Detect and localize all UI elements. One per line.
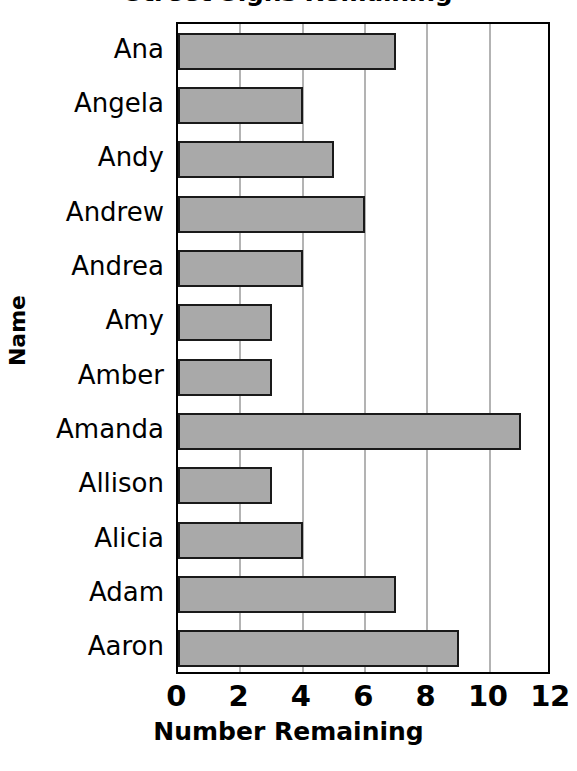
bar (178, 196, 365, 233)
x-axis-tick-label: 8 (395, 679, 455, 713)
y-axis-label: Andrew (66, 194, 164, 231)
bars-layer (178, 24, 548, 672)
bar (178, 576, 396, 613)
x-axis-tick-label: 6 (333, 679, 393, 713)
bar-chart: Street Signs Remaining AnaAngelaAndyAndr… (0, 0, 577, 771)
bar (178, 467, 272, 504)
y-axis-label: Ana (114, 31, 164, 68)
bar (178, 33, 396, 70)
y-axis-label: Amber (78, 357, 164, 394)
bar (178, 304, 272, 341)
x-axis-tick-label: 4 (271, 679, 331, 713)
bar (178, 87, 303, 124)
bar (178, 522, 303, 559)
y-axis-label: Andrea (71, 248, 164, 285)
x-axis-tick-label: 2 (208, 679, 268, 713)
y-axis-label: Angela (74, 85, 164, 122)
x-axis-tick-label: 12 (520, 679, 577, 713)
y-axis-label: Adam (89, 574, 164, 611)
x-axis-title: Number Remaining (0, 717, 577, 746)
bar (178, 141, 334, 178)
bar (178, 250, 303, 287)
bar (178, 359, 272, 396)
y-axis-label: Amanda (56, 411, 164, 448)
x-axis-tick-label: 0 (146, 679, 206, 713)
y-axis-label: Alicia (94, 520, 164, 557)
bar (178, 413, 521, 450)
plot-area (176, 22, 550, 674)
y-axis-title: Name (5, 291, 30, 371)
y-axis-label: Amy (106, 302, 165, 339)
chart-title: Street Signs Remaining (0, 0, 577, 7)
y-axis-label: Aaron (88, 628, 164, 665)
y-axis-label: Andy (98, 139, 164, 176)
x-axis-tick-label: 10 (458, 679, 518, 713)
bar (178, 630, 459, 667)
y-axis-label: Allison (79, 465, 164, 502)
